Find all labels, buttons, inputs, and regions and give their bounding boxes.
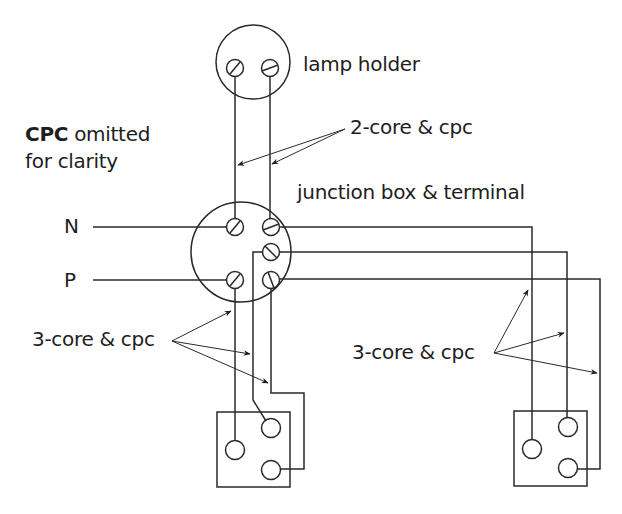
cpc-note-line2: for clarity <box>25 149 118 173</box>
three-core-left-label: 3-core & cpc <box>32 327 155 351</box>
right-switch-wire-2 <box>280 252 567 418</box>
three-core-left-arrow-2 <box>172 341 250 354</box>
three-core-right-arrow-1 <box>494 290 528 353</box>
cpc-note-bold: CPC <box>25 122 68 146</box>
three-core-right-arrow-3 <box>494 353 597 373</box>
junction-terminal-neutral <box>227 219 244 236</box>
junction-terminal-strapper <box>263 244 280 261</box>
two-core-arrow-right <box>272 129 345 164</box>
lamp-terminal-left <box>227 60 244 77</box>
cpc-note-rest: omitted <box>68 122 150 146</box>
right-switch-terminal-1 <box>523 440 542 459</box>
lamp-holder-label: lamp holder <box>303 52 420 76</box>
junction-terminal-common <box>263 272 280 289</box>
junction-terminal-lamp <box>263 219 280 236</box>
right-switch-wire-1 <box>280 227 532 440</box>
wiring-diagram <box>0 0 622 514</box>
right-switch-terminal-3 <box>559 459 578 478</box>
lamp-holder <box>216 25 290 99</box>
junction-terminal-phase <box>227 272 244 289</box>
left-switch-terminal-2 <box>262 419 281 438</box>
right-switch-wire-3 <box>280 279 600 469</box>
junction-box-label: junction box & terminal <box>297 180 525 204</box>
two-core-arrow-left <box>238 129 345 165</box>
three-core-right-label: 3-core & cpc <box>352 340 475 364</box>
three-core-right-arrow-2 <box>494 333 564 353</box>
cpc-note: CPC omitted <box>25 122 150 146</box>
right-two-way-switch <box>514 411 587 486</box>
left-switch-terminal-3 <box>262 461 281 480</box>
left-two-way-switch <box>217 412 290 487</box>
left-switch-wire-2 <box>253 252 266 421</box>
junction-box <box>191 202 291 302</box>
phase-label: P <box>64 268 76 292</box>
left-switch-wire-3 <box>271 289 304 469</box>
two-core-label: 2-core & cpc <box>350 115 473 139</box>
neutral-label: N <box>64 214 79 238</box>
left-switch-terminal-1 <box>226 441 245 460</box>
three-core-left-arrow-1 <box>172 311 231 341</box>
right-switch-terminal-2 <box>559 418 578 437</box>
lamp-terminal-right <box>262 60 279 77</box>
